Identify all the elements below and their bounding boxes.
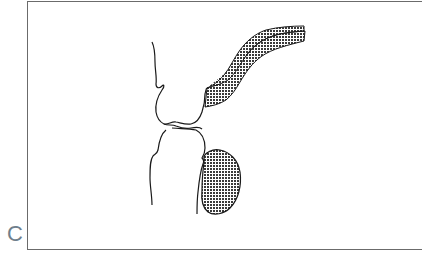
lower-oval-mass: [202, 150, 241, 214]
lower-outline: [150, 130, 166, 205]
upper-curved-band: [205, 26, 305, 107]
anatomical-drawing: [0, 0, 423, 262]
lower-outline-right: [172, 128, 205, 214]
upper-outline: [152, 42, 207, 124]
